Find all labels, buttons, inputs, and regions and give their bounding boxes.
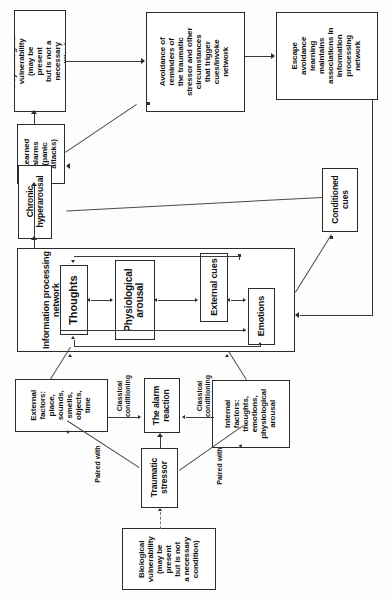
edge-stressor-to-alarm <box>160 437 161 449</box>
arrow-dot <box>238 254 241 257</box>
arrowhead-right <box>110 298 113 302</box>
node-psychological-vulnerability[interactable]: Psychological vulnerability (may be pres… <box>14 10 66 112</box>
edge-bio-vuln-to-stressor <box>160 512 161 529</box>
node-external-cues[interactable]: External cues <box>200 253 228 322</box>
arrowhead-up <box>68 354 72 357</box>
node-label: Conditioned cues <box>330 176 349 224</box>
edge-loop-bottom-left <box>74 340 75 347</box>
arrowhead-right <box>141 58 145 64</box>
node-label: Biological vulnerability (may be present… <box>138 536 201 582</box>
network-label: Information processing network <box>41 251 61 349</box>
arrowhead-right <box>271 53 275 59</box>
arrowhead-left <box>295 312 299 318</box>
node-the-alarm-reaction[interactable]: The alarm reaction <box>144 378 180 433</box>
node-label: Physiological arousal <box>124 268 146 331</box>
edge-thoughts-physio <box>91 300 112 301</box>
arrowhead-left <box>227 298 230 302</box>
node-label: The alarm reaction <box>152 386 171 425</box>
edge-label-classical-conditioning-right: Classical conditioning <box>196 372 212 420</box>
node-physiological-arousal[interactable]: Physiological arousal <box>115 260 155 340</box>
arrowhead-up <box>31 236 37 240</box>
node-label: External factors: place, sounds, smells,… <box>30 390 93 421</box>
node-conditioned-cues[interactable]: Conditioned cues <box>322 168 358 232</box>
diagram-canvas: Psychological vulnerability (may be pres… <box>0 0 392 597</box>
edge-internal-factors-to-alarm <box>186 417 214 418</box>
edge-psych-vuln-to-avoidance <box>66 61 142 62</box>
node-label: Avoidance of reminders of the traumatic … <box>160 28 232 96</box>
node-thoughts[interactable]: Thoughts <box>60 265 88 335</box>
node-escape-avoidance[interactable]: Escape avoidance learning maintains asso… <box>276 12 378 100</box>
edge-external-factors-to-alarm <box>108 417 139 418</box>
node-label: External cues <box>209 259 219 316</box>
arrowhead-up <box>31 182 37 186</box>
edge-loop-bottom <box>74 346 261 347</box>
node-biological-vulnerability[interactable]: Biological vulnerability (may be present… <box>122 528 216 590</box>
edge-loop-top <box>74 256 240 257</box>
arrowhead-right <box>195 298 198 302</box>
arrowhead-left <box>182 415 185 419</box>
node-label: Emotions <box>256 296 266 336</box>
edge-escape-feedback-vertical <box>372 100 373 316</box>
edge-hyperarousal-to-alarms <box>34 185 35 239</box>
node-emotions[interactable]: Emotions <box>248 288 275 345</box>
arrowhead-left <box>87 298 90 302</box>
arrowhead-up <box>66 429 71 434</box>
arrowhead-up <box>71 336 75 339</box>
edge-loop-mid <box>60 330 246 331</box>
arrowhead-left <box>66 163 70 169</box>
edge-label-classical-conditioning-left: Classical conditioning <box>116 372 132 420</box>
node-traumatic-stressor[interactable]: Traumatic stressor <box>141 448 178 508</box>
node-avoidance[interactable]: Avoidance of reminders of the traumatic … <box>146 12 245 112</box>
edge-conditioned-cues-to-alarms <box>66 197 322 211</box>
node-label: Thoughts <box>68 275 80 324</box>
arrow-dot <box>147 102 150 105</box>
arrowhead-left <box>154 298 157 302</box>
arrowhead-right <box>243 328 246 332</box>
arrowhead-up <box>258 342 262 345</box>
arrowhead-down <box>71 260 75 263</box>
edge-alarms-to-psych-vuln <box>34 113 35 125</box>
arrowhead-right <box>243 298 246 302</box>
edge-escape-feedback-horizontal <box>300 315 373 316</box>
node-label: Traumatic stressor <box>150 458 169 497</box>
edge-physio-external-cues <box>158 300 197 301</box>
arrowhead-right <box>138 415 141 419</box>
edge-label-paired-with-left: Paired with <box>94 440 102 488</box>
arrowhead-up <box>157 433 163 437</box>
edge-network-to-hyperarousal <box>34 239 35 249</box>
arrowhead-up <box>225 354 229 357</box>
edge-internal-factors-to-network <box>228 351 247 380</box>
edge-alarms-to-avoidance <box>65 104 137 153</box>
edge-avoidance-to-escape <box>245 56 272 57</box>
node-label: Psychological vulnerability (may be pres… <box>14 35 66 88</box>
arrowhead-up <box>31 110 37 114</box>
edge-network-to-conditioned-cues <box>295 234 332 292</box>
node-label: Escape avoidance learning maintains asso… <box>291 28 363 84</box>
arrowhead-up <box>158 508 162 511</box>
arrow-dot <box>330 236 333 239</box>
edge-label-paired-with-right: Paired with <box>216 442 224 490</box>
node-external-factors[interactable]: External factors: place, sounds, smells,… <box>15 379 108 432</box>
